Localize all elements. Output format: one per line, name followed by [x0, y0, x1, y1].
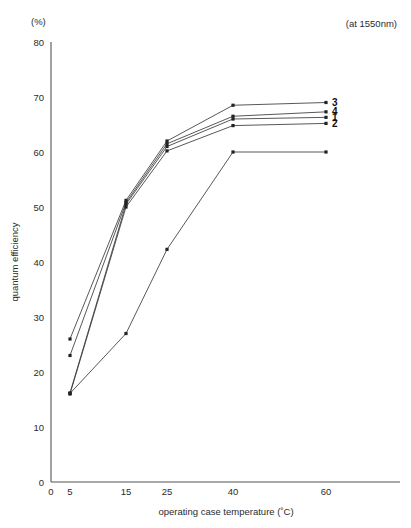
data-point-marker	[124, 332, 127, 335]
data-point-marker	[165, 145, 168, 148]
data-point-marker	[165, 149, 168, 152]
data-point-marker	[231, 117, 234, 120]
x-tick-labels: 0515254060	[48, 486, 331, 497]
y-tick-label: 60	[33, 147, 44, 158]
y-tick-label: 0	[39, 477, 44, 488]
chart-figure: (%) (at 1550nm) operating case temperatu…	[0, 0, 411, 528]
series-line-1	[70, 117, 326, 393]
data-point-marker	[165, 139, 168, 142]
data-point-marker	[231, 150, 234, 153]
x-tick-label: 60	[321, 486, 332, 497]
series-line-5	[70, 152, 326, 393]
x-tick-label: 25	[162, 486, 173, 497]
y-tick-label: 20	[33, 367, 44, 378]
data-point-marker	[231, 104, 234, 107]
data-point-marker	[324, 150, 327, 153]
data-point-marker	[324, 122, 327, 125]
y-tick-label: 70	[33, 92, 44, 103]
series-markers-group	[68, 101, 327, 396]
x-tick-label: 40	[228, 486, 239, 497]
x-tick-label: 5	[67, 486, 72, 497]
x-tick-label: 15	[121, 486, 132, 497]
series-line-3	[70, 103, 326, 340]
data-point-marker	[324, 101, 327, 104]
data-point-marker	[324, 110, 327, 113]
data-point-marker	[231, 124, 234, 127]
series-end-label-4: 4	[332, 106, 338, 117]
data-point-marker	[324, 116, 327, 119]
data-point-marker	[68, 392, 71, 395]
series-lines-group	[70, 103, 326, 395]
data-point-marker	[68, 337, 71, 340]
x-tick-label: 0	[48, 486, 53, 497]
data-point-marker	[124, 205, 127, 208]
series-line-4	[70, 112, 326, 356]
y-tick-label: 30	[33, 312, 44, 323]
x-axis-title: operating case temperature (˚C)	[158, 506, 293, 517]
data-point-marker	[68, 354, 71, 357]
data-point-marker	[165, 142, 168, 145]
y-axis-title: quantum efficiency	[9, 222, 20, 301]
y-tick-label: 80	[33, 37, 44, 48]
data-point-marker	[231, 115, 234, 118]
y-tick-label: 50	[33, 202, 44, 213]
series-line-2	[70, 123, 326, 394]
y-tick-labels: 01020304050607080	[33, 37, 44, 488]
data-point-marker	[165, 248, 168, 251]
quantum-efficiency-line-chart: (%) (at 1550nm) operating case temperatu…	[0, 0, 411, 528]
series-end-label-2: 2	[332, 118, 338, 129]
y-unit-label: (%)	[31, 16, 46, 27]
y-tick-label: 40	[33, 257, 44, 268]
measurement-condition-note: (at 1550nm)	[346, 18, 397, 29]
data-point-marker	[124, 201, 127, 204]
y-tick-label: 10	[33, 422, 44, 433]
series-end-labels-group: 1234	[332, 97, 338, 129]
